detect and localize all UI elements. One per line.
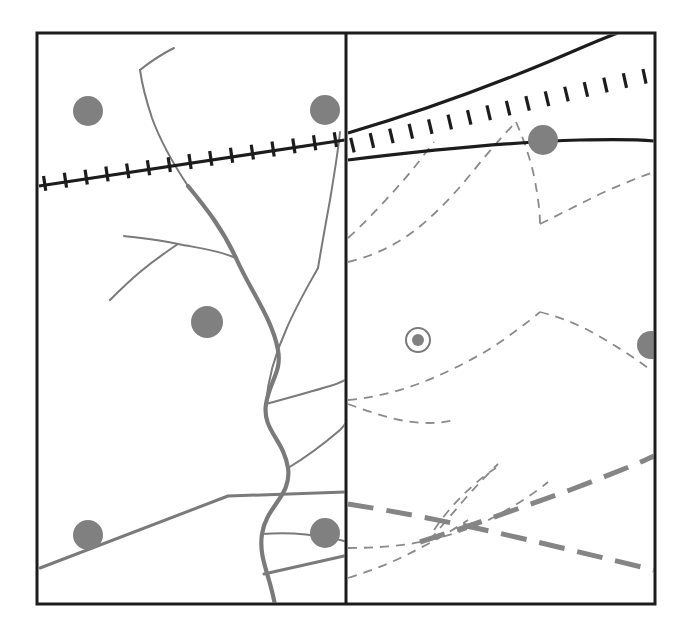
figure-root: [0, 0, 689, 632]
left-panel-hit-area[interactable]: [39, 35, 345, 603]
right-panel-hit-area[interactable]: [348, 35, 654, 603]
